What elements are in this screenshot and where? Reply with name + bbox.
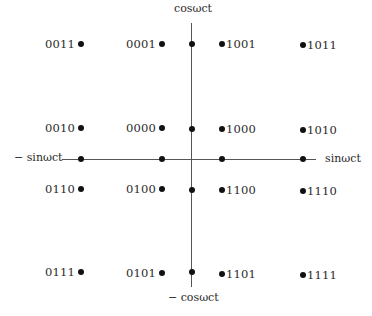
constellation-point-label: 0000 [126,122,156,134]
constellation-point-dot [159,125,165,131]
axis-marker-dot [189,269,195,275]
constellation-point-label: 0101 [126,267,156,279]
constellation-point-dot [78,269,84,275]
constellation-point-label: 0111 [45,266,75,278]
axis-label-neg-sin: − sinωct [14,152,63,164]
axis-marker-dot [189,41,195,47]
constellation-point-label: 1100 [226,184,256,196]
axis-label-neg-cos: − cosωct [168,292,219,304]
constellation-point-label: 1001 [226,38,256,50]
constellation-point-dot [300,188,306,194]
constellation-point-dot [78,186,84,192]
quadrature-axis [191,23,192,287]
constellation-point-dot [300,127,306,133]
constellation-point-label: 0001 [126,38,156,50]
constellation-point-dot [159,270,165,276]
constellation-point-dot [159,186,165,192]
constellation-point-label: 1000 [226,123,256,135]
constellation-point-dot [300,42,306,48]
axis-marker-dot [189,187,195,193]
constellation-point-label: 1111 [307,269,337,281]
axis-marker-dot [189,126,195,132]
constellation-point-dot [78,41,84,47]
constellation-point-label: 1110 [307,185,337,197]
constellation-point-label: 1010 [307,124,337,136]
constellation-point-dot [159,41,165,47]
constellation-point-label: 1101 [226,268,256,280]
constellation-point-label: 0100 [126,183,156,195]
axis-label-cos: cosωct [174,3,212,15]
axis-marker-dot [300,156,306,162]
constellation-point-dot [219,41,225,47]
constellation-point-label: 0011 [45,38,75,50]
constellation-point-dot [300,272,306,278]
axis-marker-dot [219,156,225,162]
constellation-point-label: 0010 [45,122,75,134]
axis-marker-dot [159,156,165,162]
constellation-diagram: cosωct − cosωct − sinωct sinωct 00110001… [0,0,372,316]
in-phase-axis [62,159,316,160]
axis-label-sin: sinωct [325,153,361,165]
constellation-point-dot [219,187,225,193]
constellation-point-dot [219,271,225,277]
constellation-point-label: 1011 [307,39,337,51]
constellation-point-label: 0110 [45,183,75,195]
constellation-point-dot [219,126,225,132]
axis-marker-dot [78,156,84,162]
constellation-point-dot [78,125,84,131]
